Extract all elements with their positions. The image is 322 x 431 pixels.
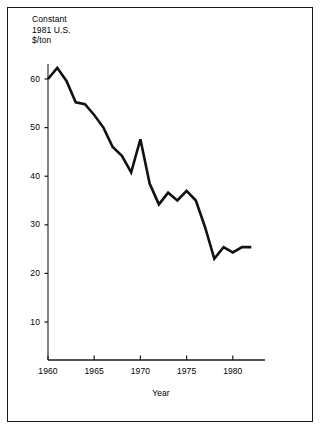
y-tick-label: 60 [16, 74, 40, 84]
y-tick-label: 40 [16, 171, 40, 181]
x-tick-label: 1975 [169, 366, 205, 376]
y-tick-label: 30 [16, 219, 40, 229]
axes-group [48, 64, 265, 360]
y-tick-label: 10 [16, 317, 40, 327]
x-tick-label: 1965 [76, 366, 112, 376]
x-axis-title: Year [0, 388, 322, 399]
x-tick-label: 1960 [30, 366, 66, 376]
x-tick-label: 1970 [122, 366, 158, 376]
y-tick-label: 50 [16, 122, 40, 132]
x-tick-label: 1980 [215, 366, 251, 376]
y-tick-label: 20 [16, 268, 40, 278]
chart-figure: Constant1981 U.S.$/ton 102030405060 1960… [0, 0, 322, 431]
data-series-line [48, 68, 251, 259]
